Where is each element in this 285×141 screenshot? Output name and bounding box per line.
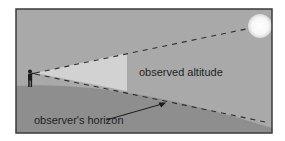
- sun-icon: [248, 14, 272, 38]
- altitude-label: observed altitude: [139, 66, 223, 78]
- altitude-diagram: observed altitude observer's horizon: [0, 0, 285, 141]
- horizon-label: observer's horizon: [34, 114, 124, 126]
